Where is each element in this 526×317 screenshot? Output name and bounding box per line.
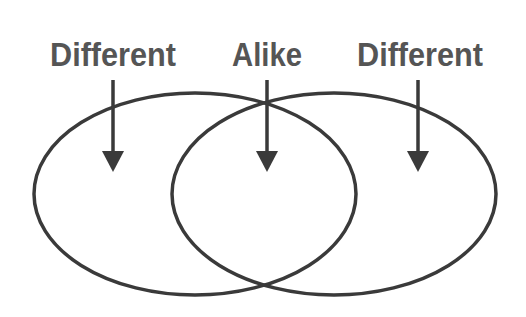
arrow-left-icon bbox=[102, 80, 124, 172]
arrow-right-icon bbox=[407, 80, 429, 172]
label-different-right: Different bbox=[357, 35, 483, 73]
left-set-ellipse bbox=[34, 93, 356, 295]
venn-diagram: Different Alike Different bbox=[0, 0, 526, 317]
arrow-center-icon bbox=[256, 80, 278, 172]
right-set-ellipse bbox=[172, 93, 496, 295]
label-different-left: Different bbox=[50, 35, 176, 73]
label-alike: Alike bbox=[232, 35, 302, 73]
